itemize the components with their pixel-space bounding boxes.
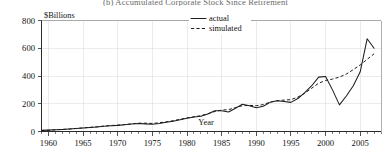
y-tick-label: 200 — [22, 99, 35, 109]
gridlines-group — [42, 21, 382, 132]
x-tick-label: 1970 — [109, 138, 126, 148]
y-axis-tick-labels: 0200400600800 — [22, 16, 35, 137]
x-axis-tick-labels: 1960196519701975198019851990199520002005 — [40, 138, 369, 148]
y-tick-label: 600 — [22, 43, 35, 53]
chart-container: (b) Accumulated Corporate Stock Since Re… — [0, 0, 391, 160]
x-tick-label: 1965 — [74, 138, 91, 148]
x-tick-label: 1995 — [282, 138, 299, 148]
x-tick-label: 1985 — [213, 138, 230, 148]
x-tick-label: 2000 — [317, 138, 334, 148]
line-chart-plot: 1960196519701975198019851990199520002005… — [0, 0, 391, 160]
y-tick-label: 0 — [31, 127, 35, 137]
legend-label-simulated: simulated — [209, 24, 242, 33]
x-axis-label: Year — [198, 118, 214, 127]
x-axis-major-ticks — [48, 132, 360, 137]
legend-label-actual: actual — [209, 14, 230, 23]
x-tick-label: 1975 — [144, 138, 161, 148]
y-tick-label: 800 — [22, 16, 35, 26]
x-tick-label: 1990 — [248, 138, 265, 148]
y-tick-label: 400 — [22, 71, 35, 81]
data-series-group — [42, 39, 375, 131]
x-tick-label: 1980 — [178, 138, 195, 148]
series-line-actual — [42, 39, 375, 131]
x-tick-label: 2005 — [352, 138, 369, 148]
y-axis-ticks — [38, 21, 42, 132]
x-tick-label: 1960 — [40, 138, 57, 148]
y-axis-unit-label: $Billions — [44, 11, 75, 20]
chart-legend: actualsimulated — [189, 13, 251, 34]
